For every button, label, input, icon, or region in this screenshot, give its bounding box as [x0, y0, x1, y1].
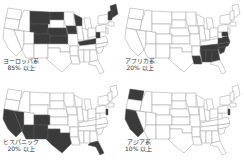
state-la	[70, 56, 80, 64]
state-ar	[70, 46, 78, 56]
state-wi	[74, 14, 82, 26]
map-panel-hispanic: ヒスパニック 20% 以上	[0, 81, 122, 162]
state-or	[4, 18, 20, 30]
map-panel-european: ヨーロッパ系 85% 以上	[0, 0, 122, 81]
state-ma	[108, 22, 114, 26]
state-pa	[96, 24, 106, 32]
state-nd	[50, 12, 64, 20]
state-oh	[88, 28, 96, 38]
state-nm	[34, 44, 48, 58]
state-al	[84, 50, 90, 62]
state-ne	[48, 28, 68, 36]
state-fl	[88, 60, 104, 74]
state-ks	[50, 36, 68, 44]
label-asian: アジア系 10% 以上	[125, 138, 152, 152]
state-nh-vt	[108, 10, 112, 20]
state-co	[34, 34, 50, 44]
state-ut	[24, 31, 34, 44]
state-wv	[96, 32, 100, 38]
state-mt	[30, 11, 50, 24]
state-sd	[50, 20, 64, 28]
map-panel-asian: アジア系 10% 以上	[122, 81, 244, 162]
state-az	[22, 44, 34, 58]
state-ia	[66, 26, 77, 34]
state-mo	[68, 34, 78, 46]
label-hispanic: ヒスパニック 20% 以上	[3, 138, 39, 152]
state-mn	[64, 12, 74, 26]
label-european: ヨーロッパ系 85% 以上	[3, 57, 39, 71]
label-african: アフリカ系 20% 以上	[125, 57, 155, 71]
map-panel-african: アフリカ系 20% 以上	[122, 0, 244, 81]
state-nj	[106, 28, 108, 34]
